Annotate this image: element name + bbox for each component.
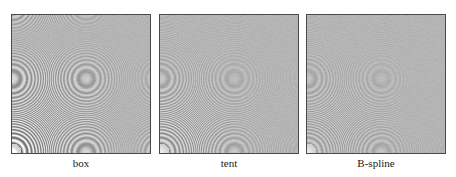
panel-b-spline — [306, 14, 446, 154]
label-box: box — [11, 156, 151, 170]
panel-tent — [159, 14, 299, 154]
panel-box — [11, 14, 151, 154]
filter-comparison-figure: box tent B-spline — [0, 0, 456, 177]
zone-plate-image-tent — [160, 15, 298, 153]
zone-plate-image-b-spline — [307, 15, 445, 153]
label-tent: tent — [159, 156, 299, 170]
zone-plate-image-box — [12, 15, 150, 153]
label-b-spline: B-spline — [306, 156, 446, 170]
